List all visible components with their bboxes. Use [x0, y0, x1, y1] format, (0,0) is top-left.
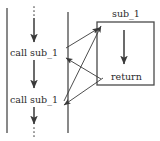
return-arrow-2 [64, 78, 103, 105]
return-label: return [111, 72, 142, 82]
call-arrow-2 [64, 26, 101, 101]
call-arrow-1 [66, 28, 99, 48]
call-label-1: call sub_1 [10, 48, 58, 58]
call-label-2: call sub_1 [10, 95, 58, 105]
ellipsis-top-icon [33, 6, 35, 16]
subroutine-name-label: sub_1 [112, 9, 140, 19]
ellipsis-bottom-icon [33, 127, 35, 137]
diagram-canvas: call sub_1 call sub_1 sub_1 return [0, 0, 160, 141]
